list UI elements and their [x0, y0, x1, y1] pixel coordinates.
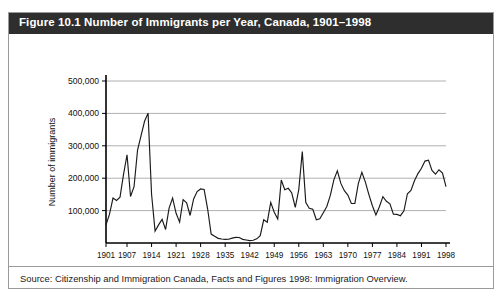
page-title: Figure 10.1 Number of Immigrants per Yea…: [19, 16, 371, 28]
figure-title-band: Figure 10.1 Number of Immigrants per Yea…: [9, 13, 493, 34]
x-tick-label: 1970: [339, 251, 358, 260]
y-tick-label: 100,000: [68, 206, 99, 216]
x-tick-label: 1928: [192, 251, 211, 260]
immigration-line-chart: 100,000200,000300,000400,000500,000 1901…: [9, 34, 495, 266]
x-tick-label: 1991: [412, 251, 431, 260]
x-tick-label: 1942: [241, 251, 260, 260]
x-tick-label: 1949: [265, 251, 284, 260]
immigrants-series-line: [106, 113, 446, 240]
y-tick-labels: 100,000200,000300,000400,000500,000: [68, 76, 99, 216]
x-tick-label: 1935: [216, 251, 235, 260]
figure-card: Figure 10.1 Number of Immigrants per Yea…: [8, 12, 494, 289]
x-tick-labels: 1901190719141921192819351942194919561963…: [97, 251, 456, 260]
y-tick-label: 300,000: [68, 141, 99, 151]
gridlines-group: [106, 81, 446, 211]
y-tick-label: 200,000: [68, 173, 99, 183]
x-tick-label: 1984: [388, 251, 407, 260]
x-tick-label: 1977: [363, 251, 382, 260]
source-note: Source: Citizenship and Immigration Cana…: [20, 273, 408, 284]
y-tick-label: 500,000: [68, 76, 99, 86]
x-tick-label: 1956: [290, 251, 309, 260]
x-tick-label: 1907: [118, 251, 137, 260]
source-divider: [9, 266, 493, 267]
x-tick-label: 1963: [314, 251, 333, 260]
x-tick-label: 1921: [167, 251, 186, 260]
x-tick-label: 1901: [97, 251, 116, 260]
chart-plot-area: 100,000200,000300,000400,000500,000 1901…: [9, 34, 493, 266]
x-tick-label: 1998: [437, 251, 456, 260]
x-tick-label: 1914: [142, 251, 161, 260]
y-axis-title: Number of immigrants: [47, 117, 57, 206]
y-tick-label: 400,000: [68, 108, 99, 118]
